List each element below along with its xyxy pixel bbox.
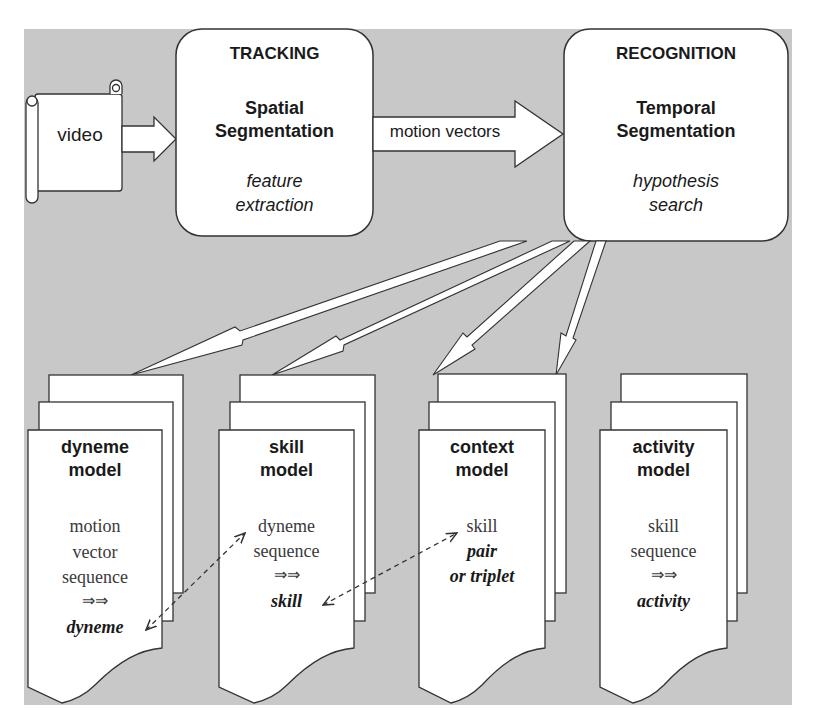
dyneme-model-title-2: model <box>28 460 162 481</box>
context-model-body-2: pair <box>419 541 545 562</box>
recognition-title: RECOGNITION <box>564 44 788 64</box>
dyneme-model-stack <box>28 375 183 703</box>
motion-vectors-label: motion vectors <box>375 122 515 142</box>
dyneme-model-body-3: sequence <box>28 567 162 588</box>
tracking-title: TRACKING <box>176 44 373 64</box>
recognition-subtitle-2: Segmentation <box>564 121 788 142</box>
dyneme-model-output: dyneme <box>28 617 162 638</box>
skill-model-title-1: skill <box>219 437 354 458</box>
context-model-body-3: or triplet <box>419 566 545 587</box>
context-model-title-1: context <box>419 437 545 458</box>
activity-model-title-1: activity <box>600 437 727 458</box>
recognition-detail-2: search <box>564 195 788 216</box>
tracking-detail-1: feature <box>176 171 373 192</box>
skill-model-stack <box>219 375 375 703</box>
diagram-canvas: video TRACKING Spatial Segmentation feat… <box>0 0 816 728</box>
activity-model-title-2: model <box>600 460 727 481</box>
skill-model-arrow-glyph: ⇒⇒ <box>219 566 354 584</box>
dyneme-model-title-1: dyneme <box>28 437 162 458</box>
context-model-title-2: model <box>419 460 545 481</box>
activity-model-stack <box>600 374 747 703</box>
activity-model-body-2: sequence <box>600 541 727 562</box>
skill-model-output: skill <box>219 591 354 612</box>
context-model-stack <box>419 374 566 703</box>
recognition-detail-1: hypothesis <box>564 171 788 192</box>
skill-model-body-1: dyneme <box>219 516 354 537</box>
tracking-detail-2: extraction <box>176 195 373 216</box>
video-label: video <box>40 124 120 146</box>
tracking-subtitle-1: Spatial <box>176 98 373 119</box>
dyneme-model-body-1: motion <box>28 516 162 537</box>
dyneme-model-arrow-glyph: ⇒⇒ <box>28 592 162 610</box>
dyneme-model-body-2: vector <box>28 542 162 563</box>
context-model-body-1: skill <box>419 516 545 537</box>
tracking-subtitle-2: Segmentation <box>176 121 373 142</box>
skill-model-body-2: sequence <box>219 541 354 562</box>
activity-model-body-1: skill <box>600 516 727 537</box>
activity-model-output: activity <box>600 591 727 612</box>
skill-model-title-2: model <box>219 460 354 481</box>
activity-model-arrow-glyph: ⇒⇒ <box>600 566 727 584</box>
recognition-subtitle-1: Temporal <box>564 98 788 119</box>
